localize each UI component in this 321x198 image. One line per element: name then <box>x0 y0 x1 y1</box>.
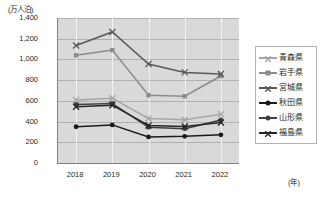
legend-label: 青森県 <box>279 54 303 62</box>
legend-item-青森県[interactable]: 青森県 <box>259 50 314 65</box>
legend-item-福島県[interactable]: 福島県 <box>259 125 314 140</box>
legend-marker-icon <box>259 67 277 78</box>
data-point <box>74 124 79 129</box>
y-tick-label: 800 <box>4 76 38 84</box>
data-point <box>110 48 114 52</box>
legend-marker-icon <box>259 97 277 108</box>
legend-marker-icon <box>259 127 277 138</box>
legend-label: 岩手県 <box>279 69 303 77</box>
legend-label: 秋田県 <box>279 99 303 107</box>
legend: 青森県岩手県宮城県秋田県山形県福島県 <box>255 46 317 144</box>
y-tick-label: 1,000 <box>4 55 38 63</box>
data-point <box>146 135 151 140</box>
data-point <box>219 132 224 137</box>
x-tick-label: 2021 <box>164 170 204 179</box>
y-tick-label: 1,200 <box>4 35 38 43</box>
y-tick-label: 200 <box>4 138 38 146</box>
x-tick-label: 2019 <box>91 170 131 179</box>
plot-area <box>57 18 239 164</box>
data-point <box>74 53 78 57</box>
x-tick-label: 2022 <box>200 170 240 179</box>
series-line <box>76 105 221 126</box>
y-tick-label: 600 <box>4 97 38 105</box>
y-tick-label: 0 <box>4 159 38 167</box>
y-axis-ticks: 1,4001,2001,0008006004002000 <box>4 0 38 198</box>
x-tick-label: 2018 <box>55 170 95 179</box>
series-line <box>76 32 221 74</box>
data-point <box>110 122 115 127</box>
legend-label: 福島県 <box>279 129 303 137</box>
y-tick-label: 400 <box>4 118 38 126</box>
legend-marker-icon <box>259 82 277 93</box>
legend-marker-icon <box>259 112 277 123</box>
line-chart: (万人泊) 1,4001,2001,0008006004002000 20182… <box>0 0 321 198</box>
series-line <box>76 98 221 119</box>
legend-label: 山形県 <box>279 114 303 122</box>
legend-item-秋田県[interactable]: 秋田県 <box>259 95 314 110</box>
legend-label: 宮城県 <box>279 84 303 92</box>
series-layer <box>58 18 239 163</box>
data-point <box>146 93 150 97</box>
data-point <box>182 134 187 139</box>
legend-marker-icon <box>259 52 277 63</box>
y-tick-label: 1,400 <box>4 14 38 22</box>
data-point <box>183 94 187 98</box>
series-青森県 <box>73 95 224 122</box>
x-axis-title: (年) <box>288 176 300 187</box>
x-tick-label: 2020 <box>128 170 168 179</box>
legend-item-宮城県[interactable]: 宮城県 <box>259 80 314 95</box>
